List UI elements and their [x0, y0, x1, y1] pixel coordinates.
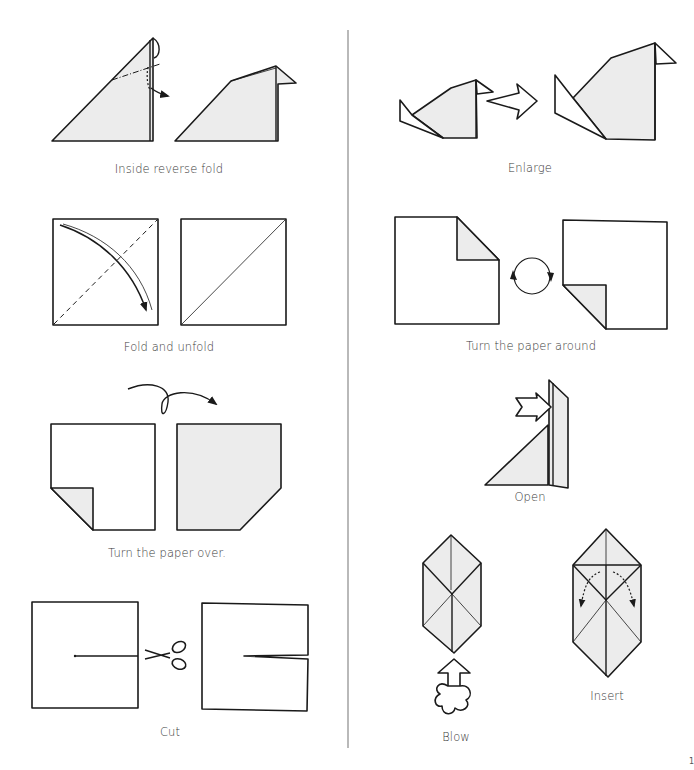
cut-diagram — [32, 602, 308, 711]
diagram-artwork — [0, 0, 694, 770]
caption-inside-reverse-fold: Inside reverse fold — [115, 162, 223, 176]
inside-reverse-fold-diagram — [52, 38, 296, 141]
caption-insert: Insert — [590, 689, 624, 703]
turn-paper-around-diagram — [395, 217, 667, 329]
caption-cut: Cut — [160, 725, 180, 739]
enlarge-diagram — [400, 43, 676, 140]
page-number: 1 — [689, 757, 694, 766]
blow-diagram — [423, 535, 481, 714]
caption-blow: Blow — [442, 730, 470, 744]
insert-diagram — [573, 529, 641, 677]
caption-turn-paper-around: Turn the paper around — [466, 339, 596, 353]
caption-turn-paper-over: Turn the paper over. — [108, 546, 226, 560]
origami-symbols-page: Inside reverse fold Fold and unfold Turn… — [0, 0, 694, 770]
rotate-arrows-icon — [510, 258, 554, 294]
fold-and-unfold-diagram — [53, 219, 286, 325]
caption-fold-and-unfold: Fold and unfold — [124, 340, 214, 354]
scissors-icon — [145, 639, 188, 671]
caption-enlarge: Enlarge — [508, 161, 552, 175]
caption-open: Open — [514, 490, 545, 504]
turn-paper-over-diagram — [51, 385, 281, 530]
open-diagram — [485, 380, 568, 488]
